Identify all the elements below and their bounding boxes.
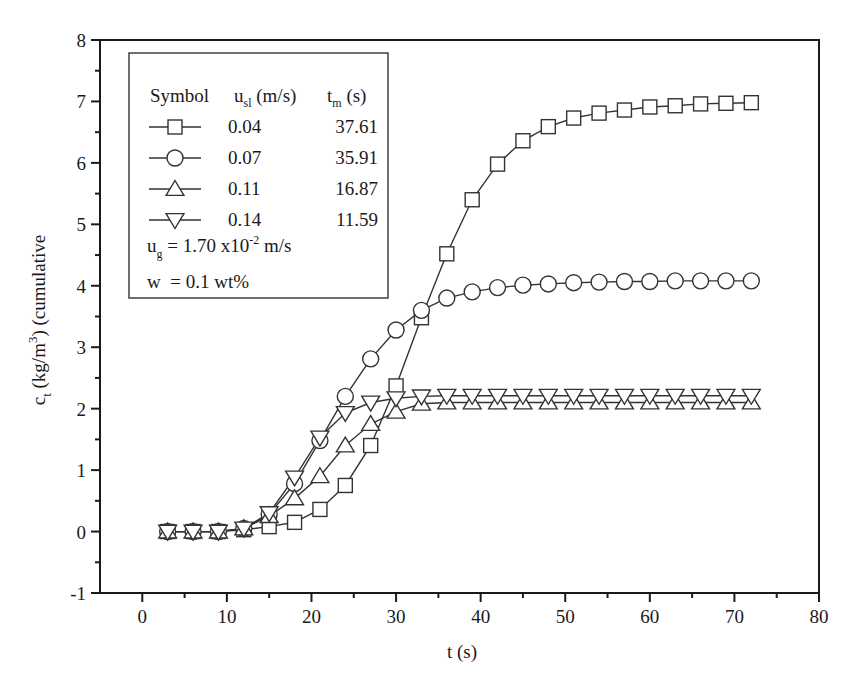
- circle-marker: [540, 276, 556, 292]
- circle-marker: [693, 273, 709, 289]
- square-marker: [643, 100, 657, 114]
- series-line: [168, 403, 752, 532]
- y-tick-label: 0: [77, 522, 87, 543]
- y-tick-label: -1: [70, 583, 86, 604]
- circle-marker: [337, 388, 353, 404]
- square-marker: [694, 97, 708, 111]
- legend-w: w = 0.1 wt%: [147, 271, 249, 292]
- y-tick-label: 7: [77, 91, 87, 112]
- x-axis: 01020304050607080: [138, 593, 829, 627]
- square-marker: [168, 120, 182, 134]
- square-marker: [744, 96, 758, 110]
- x-tick-label: 70: [725, 606, 744, 627]
- circle-marker: [616, 273, 632, 289]
- y-tick-label: 5: [77, 214, 87, 235]
- circle-marker: [667, 273, 683, 289]
- triangle-up-marker: [311, 468, 329, 483]
- square-marker: [567, 111, 581, 125]
- square-marker: [516, 134, 530, 148]
- y-tick-label: 6: [77, 153, 87, 174]
- x-tick-label: 40: [471, 606, 490, 627]
- square-marker: [364, 439, 378, 453]
- series-line: [168, 281, 752, 532]
- x-tick-label: 30: [387, 606, 406, 627]
- legend-tm-value: 16.87: [335, 178, 378, 199]
- circle-marker: [490, 280, 506, 296]
- triangle-up-marker: [362, 416, 380, 431]
- legend-usl-value: 0.14: [228, 209, 262, 230]
- square-marker: [313, 502, 327, 516]
- legend-tm-value: 37.61: [335, 116, 378, 137]
- square-marker: [719, 96, 733, 110]
- x-tick-label: 80: [810, 606, 829, 627]
- square-marker: [592, 106, 606, 120]
- series-circle: [168, 281, 752, 532]
- square-marker: [288, 515, 302, 529]
- x-tick-label: 50: [556, 606, 575, 627]
- circle-marker: [515, 277, 531, 293]
- legend-usl-value: 0.04: [228, 116, 262, 137]
- y-tick-label: 2: [77, 399, 87, 420]
- square-marker: [440, 247, 454, 261]
- circle-marker: [388, 322, 404, 338]
- circle-marker: [464, 284, 480, 300]
- circle-marker: [642, 273, 658, 289]
- series-markers-triangle-down: [159, 389, 761, 540]
- x-tick-label: 60: [640, 606, 659, 627]
- legend-usl-value: 0.11: [228, 178, 261, 199]
- legend-tm-value: 11.59: [336, 209, 378, 230]
- square-marker: [668, 99, 682, 113]
- circle-marker: [363, 351, 379, 367]
- legend: Symbol usl (m/s) tm (s) 0.0437.610.0735.…: [129, 53, 388, 298]
- series-triangle-up: [168, 403, 752, 532]
- square-marker: [389, 379, 403, 393]
- circle-marker: [591, 274, 607, 290]
- y-tick-label: 3: [77, 337, 87, 358]
- x-tick-label: 20: [302, 606, 321, 627]
- series-markers-triangle-up: [159, 394, 761, 538]
- triangle-down-marker: [362, 396, 380, 411]
- legend-usl-value: 0.07: [228, 147, 261, 168]
- circle-marker: [167, 150, 183, 166]
- circle-marker: [566, 275, 582, 291]
- series-line: [168, 396, 752, 532]
- circle-marker: [413, 302, 429, 318]
- line-chart: -1012345678 01020304050607080 t (s) ct (…: [0, 0, 853, 694]
- x-axis-title: t (s): [447, 641, 477, 663]
- square-marker: [491, 157, 505, 171]
- y-tick-label: 4: [77, 276, 87, 297]
- square-marker: [465, 193, 479, 207]
- circle-marker: [743, 273, 759, 289]
- x-tick-label: 10: [217, 606, 236, 627]
- circle-marker: [439, 290, 455, 306]
- circle-marker: [718, 273, 734, 289]
- y-axis: -1012345678: [70, 30, 100, 604]
- square-marker: [541, 120, 555, 134]
- legend-tm-value: 35.91: [335, 147, 378, 168]
- square-marker: [338, 478, 352, 492]
- x-tick-label: 0: [138, 606, 148, 627]
- triangle-up-marker: [336, 437, 354, 452]
- y-tick-label: 1: [77, 460, 87, 481]
- square-marker: [617, 103, 631, 117]
- series-triangle-down: [168, 396, 752, 532]
- y-tick-label: 8: [77, 30, 87, 51]
- y-axis-title: ct (kg/m3) (cumulative: [25, 235, 54, 406]
